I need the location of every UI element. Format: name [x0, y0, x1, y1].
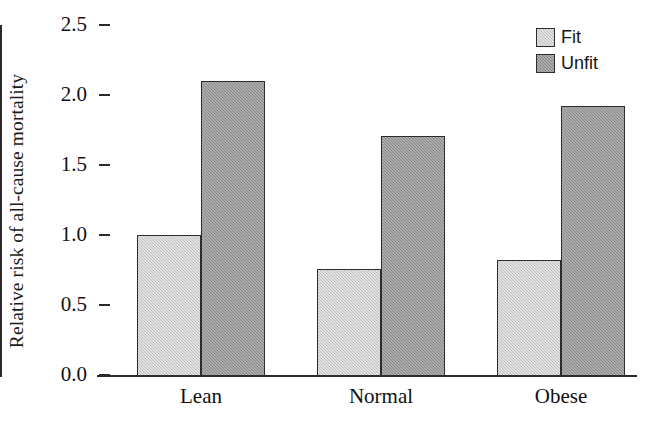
- bar-chart-figure: Relative risk of all-cause mortality 0.0…: [0, 0, 647, 422]
- bar-obese-unfit[interactable]: [561, 106, 625, 376]
- y-axis-tick-label: 2.5: [31, 14, 87, 35]
- y-axis-tick: [99, 374, 110, 376]
- y-axis-tick: [99, 94, 110, 96]
- legend-swatch-unfit-icon: [536, 54, 555, 73]
- y-axis-tick: [99, 234, 110, 236]
- x-axis-label-obese: Obese: [491, 386, 631, 407]
- y-axis-tick: [99, 164, 110, 166]
- chart-legend: Fit Unfit: [536, 24, 598, 76]
- y-axis-line: [0, 25, 2, 377]
- y-axis-tick: [99, 24, 110, 26]
- bar-obese-fit[interactable]: [497, 260, 561, 376]
- y-axis-title: Relative risk of all-cause mortality: [0, 0, 34, 422]
- bar-lean-fit[interactable]: [137, 235, 201, 376]
- legend-item-fit[interactable]: Fit: [536, 24, 598, 50]
- legend-swatch-fit-icon: [536, 28, 555, 47]
- bar-lean-unfit[interactable]: [201, 81, 265, 376]
- y-axis-tick-label: 1.0: [31, 224, 87, 245]
- bar-normal-unfit[interactable]: [381, 136, 445, 376]
- legend-label-fit: Fit: [561, 28, 581, 46]
- legend-item-unfit[interactable]: Unfit: [536, 50, 598, 76]
- x-axis-label-normal: Normal: [311, 386, 451, 407]
- x-axis-label-lean: Lean: [131, 386, 271, 407]
- bar-normal-fit[interactable]: [317, 269, 381, 376]
- legend-label-unfit: Unfit: [561, 54, 598, 72]
- y-axis-tick-label: 0.5: [31, 294, 87, 315]
- y-axis-tick: [99, 304, 110, 306]
- y-axis-tick-label: 0.0: [31, 364, 87, 385]
- y-axis-tick-label: 1.5: [31, 154, 87, 175]
- y-axis-tick-label: 2.0: [31, 84, 87, 105]
